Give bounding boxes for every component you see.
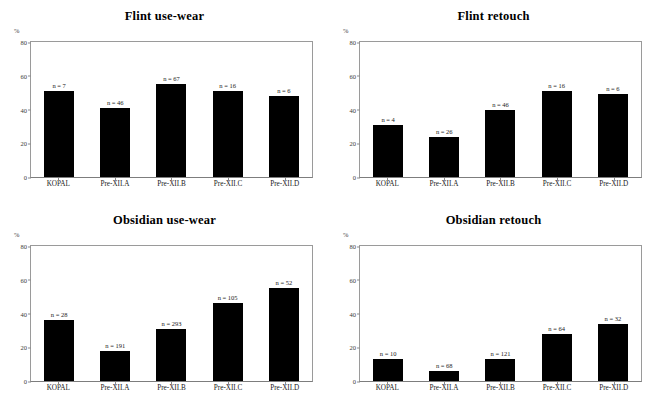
bar-sample-size-label: n = 191	[105, 342, 125, 349]
y-axis-unit-label: %	[343, 231, 348, 238]
chart-panel-flint-retouch: Flint retouch % n = 4n = 26n = 46n = 16n…	[329, 0, 658, 203]
bar-column: n = 52	[256, 246, 311, 381]
y-axis-tick-label: 80	[21, 39, 32, 46]
chart-title: Flint retouch	[329, 9, 658, 24]
bar-sample-size-label: n = 68	[436, 362, 453, 369]
bar: n = 10	[373, 359, 403, 381]
x-axis-tick-mark	[500, 178, 501, 181]
bar-series: n = 7n = 46n = 67n = 16n = 6	[31, 42, 312, 177]
plot-area: n = 7n = 46n = 67n = 16n = 6 020406080	[30, 41, 313, 178]
bar-column: n = 68	[417, 246, 472, 381]
x-axis-tick-mark	[285, 382, 286, 385]
bar: n = 46	[485, 110, 515, 178]
x-axis-tick-mark	[444, 178, 445, 181]
bar: n = 67	[156, 84, 186, 177]
chart-title: Obsidian retouch	[329, 213, 658, 228]
x-axis-tick-labels: KOPALPre-XII.APre-XII.BPre-XII.CPre-XII.…	[30, 384, 313, 392]
y-axis-tick-label: 60	[350, 276, 361, 283]
y-axis-tick-label: 20	[350, 344, 361, 351]
x-axis-tick-mark	[171, 178, 172, 181]
bar-sample-size-label: n = 28	[51, 311, 68, 318]
bar: n = 16	[542, 91, 572, 177]
bar-column: n = 46	[473, 42, 528, 177]
bar-sample-size-label: n = 16	[219, 82, 236, 89]
plot-area: n = 10n = 68n = 121n = 64n = 32 02040608…	[359, 245, 642, 382]
x-axis-tick-mark	[228, 178, 229, 181]
bar-column: n = 191	[88, 246, 143, 381]
y-axis-tick-label: 20	[21, 344, 32, 351]
figure-page: Flint use-wear % n = 7n = 46n = 67n = 16…	[0, 0, 658, 407]
x-axis-tick-label: Pre-XII.C	[200, 180, 255, 188]
bar: n = 293	[156, 329, 186, 381]
bar-sample-size-label: n = 26	[436, 128, 453, 135]
x-axis-tick-label: KOPAL	[31, 384, 86, 392]
x-axis-tick-label: Pre-XII.B	[473, 180, 528, 188]
y-axis-tick-label: 60	[21, 276, 32, 283]
plot-area: n = 28n = 191n = 293n = 105n = 52 020406…	[30, 245, 313, 382]
x-axis-tick-label: Pre-XII.A	[87, 180, 142, 188]
bar: n = 191	[100, 351, 130, 381]
bar-sample-size-label: n = 7	[52, 82, 65, 89]
bar-column: n = 16	[529, 42, 584, 177]
bar-column: n = 46	[88, 42, 143, 177]
bar: n = 4	[373, 125, 403, 177]
bar: n = 105	[213, 303, 243, 381]
x-axis-tick-labels: KOPALPre-XII.APre-XII.BPre-XII.CPre-XII.…	[30, 180, 313, 188]
chart-title: Obsidian use-wear	[0, 213, 329, 228]
bar-sample-size-label: n = 52	[276, 279, 293, 286]
bar-column: n = 10	[361, 246, 416, 381]
bar: n = 28	[44, 320, 74, 381]
bar-column: n = 26	[417, 42, 472, 177]
bar-column: n = 64	[529, 246, 584, 381]
y-axis-unit-label: %	[14, 27, 19, 34]
bar: n = 6	[269, 96, 299, 177]
bar-sample-size-label: n = 32	[605, 315, 622, 322]
x-axis-tick-label: Pre-XII.C	[529, 384, 584, 392]
y-axis-tick-label: 60	[350, 72, 361, 79]
bar-column: n = 16	[200, 42, 255, 177]
bar-sample-size-label: n = 46	[492, 101, 509, 108]
x-axis-tick-label: Pre-XII.D	[586, 384, 641, 392]
bar-column: n = 28	[32, 246, 87, 381]
x-axis-tick-mark	[115, 382, 116, 385]
y-axis-tick-label: 80	[350, 243, 361, 250]
y-axis-tick-label: 20	[21, 140, 32, 147]
bar: n = 6	[598, 94, 628, 177]
bar-sample-size-label: n = 16	[548, 82, 565, 89]
bar: n = 16	[213, 91, 243, 177]
y-axis-unit-label: %	[14, 231, 19, 238]
bar-sample-size-label: n = 293	[162, 320, 182, 327]
x-axis-tick-label: Pre-XII.B	[144, 384, 199, 392]
bar-sample-size-label: n = 105	[218, 294, 238, 301]
bar-sample-size-label: n = 6	[277, 87, 290, 94]
y-axis-tick-label: 40	[350, 310, 361, 317]
x-axis-tick-label: Pre-XII.A	[416, 180, 471, 188]
bar: n = 52	[269, 288, 299, 381]
x-axis-tick-label: Pre-XII.A	[87, 384, 142, 392]
bar-series: n = 28n = 191n = 293n = 105n = 52	[31, 246, 312, 381]
y-axis-tick-label: 40	[350, 106, 361, 113]
x-axis-tick-label: KOPAL	[31, 180, 86, 188]
x-axis-tick-mark	[444, 382, 445, 385]
x-axis-tick-labels: KOPALPre-XII.APre-XII.BPre-XII.CPre-XII.…	[359, 180, 642, 188]
x-axis-tick-label: Pre-XII.D	[257, 384, 312, 392]
y-axis-tick-label: 80	[350, 39, 361, 46]
bar-series: n = 10n = 68n = 121n = 64n = 32	[360, 246, 641, 381]
x-axis-tick-mark	[228, 382, 229, 385]
chart-panel-obsidian-retouch: Obsidian retouch % n = 10n = 68n = 121n …	[329, 204, 658, 407]
x-axis-tick-mark	[614, 382, 615, 385]
y-axis-tick-label: 60	[21, 72, 32, 79]
x-axis-tick-mark	[557, 178, 558, 181]
bar-column: n = 7	[32, 42, 87, 177]
y-axis-unit-label: %	[343, 27, 348, 34]
bar-series: n = 4n = 26n = 46n = 16n = 6	[360, 42, 641, 177]
bar-sample-size-label: n = 64	[548, 325, 565, 332]
bar: n = 64	[542, 334, 572, 381]
x-axis-tick-label: Pre-XII.B	[473, 384, 528, 392]
y-axis-tick-label: 80	[21, 243, 32, 250]
x-axis-tick-mark	[285, 178, 286, 181]
x-axis-tick-label: Pre-XII.A	[416, 384, 471, 392]
bar-sample-size-label: n = 10	[380, 350, 397, 357]
bar: n = 32	[598, 324, 628, 381]
bar: n = 68	[429, 371, 459, 381]
